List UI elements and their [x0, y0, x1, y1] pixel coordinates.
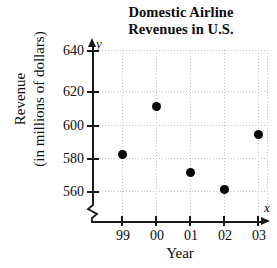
y-tick-600 — [87, 125, 99, 127]
x-tick-01 — [189, 216, 191, 226]
data-point-02 — [220, 185, 229, 194]
data-point-03 — [254, 130, 263, 139]
x-tick-02 — [223, 216, 225, 226]
chart-title: Domestic Airline Revenues in U.S. — [88, 4, 274, 38]
y-tick-label-640: 640 — [44, 44, 84, 58]
x-axis-arrow-icon — [261, 217, 270, 225]
gridline-year-01 — [190, 50, 191, 222]
x-tick-99 — [121, 216, 123, 226]
chart-title-line-1: Domestic Airline — [88, 4, 274, 21]
x-tick-03 — [257, 216, 259, 226]
y-axis-title: Revenue (in millions of dollars) — [11, 9, 49, 189]
x-tick-label-02: 02 — [208, 228, 242, 243]
y-tick-label-580: 580 — [44, 152, 84, 166]
x-axis-letter: x — [264, 200, 270, 216]
x-tick-label-00: 00 — [140, 228, 174, 243]
x-tick-label-03: 03 — [242, 228, 276, 243]
gridline-620 — [93, 91, 268, 92]
chart-title-line-2: Revenues in U.S. — [88, 21, 274, 38]
data-point-99 — [118, 150, 127, 159]
y-tick-640 — [87, 50, 99, 52]
x-tick-label-99: 99 — [106, 228, 140, 243]
data-point-00 — [152, 102, 161, 111]
gridline-year-02 — [224, 50, 225, 222]
y-tick-label-560: 560 — [44, 185, 84, 199]
y-axis-title-line-2: (in millions of dollars) — [30, 9, 49, 189]
gridline-top — [93, 50, 268, 51]
x-tick-label-01: 01 — [174, 228, 208, 243]
gridline-600 — [93, 125, 268, 126]
y-axis-arrow-icon — [88, 38, 96, 47]
chart-figure: Domestic Airline Revenues in U.S. y x 64… — [0, 0, 277, 268]
x-axis-title: Year — [120, 245, 240, 262]
y-tick-label-600: 600 — [44, 119, 84, 133]
gridline-year-00 — [156, 50, 157, 222]
y-tick-620 — [87, 91, 99, 93]
x-tick-00 — [155, 216, 157, 226]
plot-area — [93, 50, 268, 222]
y-axis-title-line-1: Revenue — [11, 9, 30, 189]
gridline-560 — [93, 191, 268, 192]
gridline-right — [267, 50, 268, 222]
y-tick-580 — [87, 158, 99, 160]
data-point-01 — [186, 168, 195, 177]
y-tick-label-620: 620 — [44, 85, 84, 99]
y-axis-break-icon — [86, 199, 100, 223]
gridline-year-99 — [122, 50, 123, 222]
y-tick-560 — [87, 191, 99, 193]
x-axis-line — [92, 221, 262, 223]
